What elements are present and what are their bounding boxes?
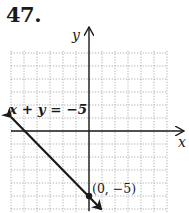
- y-axis-label: y: [71, 27, 81, 43]
- x-axis-label: x: [178, 134, 186, 150]
- equation-label: x + y = −5: [8, 101, 87, 117]
- coordinate-graph: x y x + y = −5 (0, −5): [0, 0, 189, 213]
- point-label: (0, −5): [92, 181, 136, 196]
